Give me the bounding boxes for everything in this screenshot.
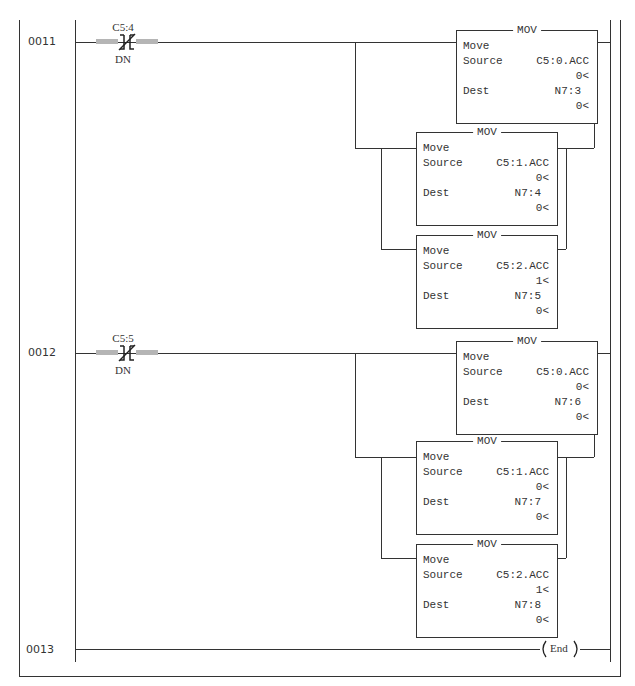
source-value: 0< (576, 70, 589, 83)
source-label: Source (423, 157, 463, 170)
end-coil[interactable]: End (540, 640, 580, 658)
dest-address: N7:4 (515, 187, 541, 200)
normally-closed-contact-icon (94, 344, 160, 362)
source-address: C5:0.ACC (536, 366, 589, 379)
source-value: 0< (576, 381, 589, 394)
rung-number: 0011 (28, 35, 56, 48)
dest-label: Dest (423, 496, 449, 509)
mov-instruction[interactable]: MOV Move SourceC5:2.ACC 1< DestN7:8 0< (416, 544, 558, 638)
output-wire-top (597, 42, 610, 43)
branch-bottom-left (355, 148, 416, 149)
output-wire-top (597, 353, 610, 354)
mov-name: Move (423, 451, 449, 464)
mov-title: MOV (513, 335, 541, 347)
rung-number: 0013 (26, 643, 54, 656)
dest-label: Dest (423, 290, 449, 303)
source-address: C5:2.ACC (496, 569, 549, 582)
dest-address: N7:7 (515, 496, 541, 509)
branch-left-outer (355, 42, 356, 148)
source-label: Source (463, 366, 503, 379)
mov-title: MOV (473, 435, 501, 447)
source-label: Source (423, 466, 463, 479)
dest-value: 0< (536, 202, 549, 215)
dest-value: 0< (576, 411, 589, 424)
mov-instruction[interactable]: MOV Move SourceC5:1.ACC 0< DestN7:4 0< (416, 132, 558, 226)
mov-name: Move (423, 554, 449, 567)
dest-label: Dest (463, 396, 489, 409)
contact-address: C5:5 (103, 332, 143, 344)
mov-instruction[interactable]: MOV Move SourceC5:1.ACC 0< DestN7:7 0< (416, 441, 558, 535)
rung-number: 0012 (28, 346, 56, 359)
source-value: 0< (536, 481, 549, 494)
end-output-wire (580, 649, 610, 650)
source-address: C5:2.ACC (496, 260, 549, 273)
mov-name: Move (463, 40, 489, 53)
dest-value: 0< (536, 614, 549, 627)
branch-bottom-right (556, 457, 594, 458)
mov-title: MOV (473, 538, 501, 550)
source-address: C5:1.ACC (496, 466, 549, 479)
source-label: Source (463, 55, 503, 68)
source-value: 0< (536, 172, 549, 185)
dest-address: N7:3 (555, 85, 581, 98)
dest-value: 0< (576, 100, 589, 113)
source-label: Source (423, 569, 463, 582)
branch-inner-bottom-left (381, 249, 416, 250)
mov-name: Move (463, 351, 489, 364)
xio-contact-c5-4[interactable] (94, 33, 160, 51)
mov-title: MOV (473, 126, 501, 138)
dest-label: Dest (423, 187, 449, 200)
frame-right-border (620, 20, 621, 677)
branch-left-outer (355, 353, 356, 457)
xio-contact-c5-5[interactable] (94, 344, 160, 362)
mov-name: Move (423, 245, 449, 258)
contact-bit: DN (103, 364, 143, 376)
mov-instruction[interactable]: MOV Move SourceC5:2.ACC 1< DestN7:5 0< (416, 235, 558, 329)
source-address: C5:0.ACC (536, 55, 589, 68)
rung-wire (75, 649, 540, 650)
source-address: C5:1.ACC (496, 157, 549, 170)
branch-left-inner (381, 148, 382, 249)
frame-bottom-border (19, 676, 620, 677)
dest-address: N7:5 (515, 290, 541, 303)
mov-title: MOV (473, 229, 501, 241)
branch-right-inner (566, 457, 567, 558)
dest-value: 0< (536, 511, 549, 524)
contact-address: C5:4 (103, 21, 143, 33)
branch-left-inner (381, 457, 382, 558)
dest-label: Dest (423, 599, 449, 612)
dest-address: N7:8 (515, 599, 541, 612)
branch-bottom-left (355, 457, 416, 458)
right-power-rail (610, 20, 611, 662)
left-power-rail (75, 20, 76, 662)
normally-closed-contact-icon (94, 33, 160, 51)
end-label: End (550, 642, 568, 654)
dest-label: Dest (463, 85, 489, 98)
branch-bottom-right (556, 148, 594, 149)
branch-inner-bottom-left (381, 558, 416, 559)
dest-value: 0< (536, 305, 549, 318)
mov-title: MOV (513, 24, 541, 36)
mov-instruction[interactable]: MOV Move SourceC5:0.ACC 0< DestN7:3 0< (456, 30, 598, 124)
contact-bit: DN (103, 53, 143, 65)
dest-address: N7:6 (555, 396, 581, 409)
source-label: Source (423, 260, 463, 273)
frame-left-border (19, 20, 20, 676)
mov-name: Move (423, 142, 449, 155)
source-value: 1< (536, 584, 549, 597)
mov-instruction[interactable]: MOV Move SourceC5:0.ACC 0< DestN7:6 0< (456, 341, 598, 435)
branch-right-inner (566, 148, 567, 249)
source-value: 1< (536, 275, 549, 288)
